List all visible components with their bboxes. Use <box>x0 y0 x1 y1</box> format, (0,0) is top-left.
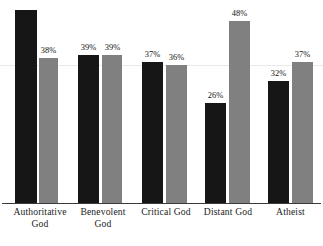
bar-value-label-series-1-distant-god: 26% <box>203 91 228 100</box>
x-axis-label-line-1: Critical God <box>141 206 191 217</box>
bar-value-label-series-1-benevolent-god: 39% <box>76 43 101 52</box>
x-axis-line <box>2 203 321 204</box>
bar-group-benevolent-god: 39% 39% <box>77 0 123 203</box>
bar-series-1-distant-god[interactable] <box>205 103 226 203</box>
bar-series-2-distant-god[interactable] <box>229 21 250 203</box>
x-axis-label-line-1: Benevolent <box>80 206 125 217</box>
bar-group-critical-god: 37% 36% <box>141 0 187 203</box>
bar-value-label-series-2-distant-god: 48% <box>227 9 252 18</box>
x-axis-category-labels: Authoritative God Benevolent God Critica… <box>0 206 323 246</box>
x-axis-label-distant-god: Distant God <box>192 206 264 218</box>
bar-value-label-series-2-critical-god: 36% <box>164 53 189 62</box>
bar-group-authoritative-god: 51% 38% <box>14 0 60 203</box>
plot-area: 51% 38% 39% 39% 37% 36% 26% 48% <box>0 0 323 203</box>
bar-series-2-benevolent-god[interactable] <box>102 55 122 203</box>
bar-value-label-series-2-benevolent-god: 39% <box>100 43 125 52</box>
bar-series-1-benevolent-god[interactable] <box>78 55 99 203</box>
bar-series-2-authoritative-god[interactable] <box>39 58 58 203</box>
bar-value-label-series-2-authoritative-god: 38% <box>39 46 58 55</box>
x-axis-label-line-1: Atheist <box>276 206 305 217</box>
bar-series-2-critical-god[interactable] <box>166 65 187 203</box>
bar-group-distant-god: 26% 48% <box>204 0 250 203</box>
bar-series-1-authoritative-god[interactable] <box>15 10 37 203</box>
bar-series-1-critical-god[interactable] <box>142 62 163 203</box>
bar-value-label-series-2-atheist: 37% <box>290 50 315 59</box>
bar-group-atheist: 32% 37% <box>267 0 313 203</box>
x-axis-label-line-1: Distant God <box>204 206 252 217</box>
x-axis-label-line-2: God <box>65 218 141 230</box>
bar-series-1-atheist[interactable] <box>268 81 289 203</box>
bar-value-label-series-1-atheist: 32% <box>266 69 291 78</box>
x-axis-label-line-1: Authoritative <box>13 206 66 217</box>
bar-value-label-series-1-critical-god: 37% <box>140 50 165 59</box>
x-axis-label-atheist: Atheist <box>258 206 323 218</box>
bar-series-2-atheist[interactable] <box>292 62 313 203</box>
bar-chart: 51% 38% 39% 39% 37% 36% 26% 48% <box>0 0 323 246</box>
